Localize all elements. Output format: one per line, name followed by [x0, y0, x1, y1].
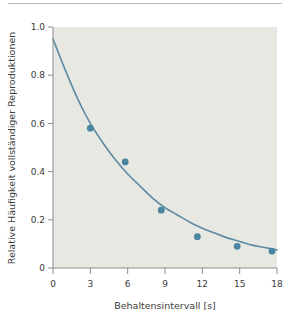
data-point [234, 243, 241, 250]
y-tick-label: 0.4 [31, 167, 46, 177]
data-point [269, 248, 276, 255]
y-axis-ticks: 00.20.40.60.81.0 [31, 22, 53, 273]
chart-canvas: 00.20.40.60.81.0 0369121518 Behaltensint… [0, 0, 290, 320]
x-tick-label: 18 [271, 279, 283, 289]
data-point [158, 207, 165, 214]
x-tick-label: 12 [197, 279, 208, 289]
y-tick-label: 1.0 [31, 22, 46, 32]
y-tick-label: 0.2 [31, 215, 45, 225]
data-point [194, 233, 201, 240]
x-tick-label: 0 [50, 279, 56, 289]
y-tick-label: 0.8 [31, 70, 46, 80]
data-point [87, 125, 94, 132]
y-axis-title: Relative Häufigkeit vollständiger Reprod… [6, 32, 17, 265]
x-axis-ticks: 0369121518 [50, 268, 283, 289]
x-tick-label: 6 [125, 279, 131, 289]
plot-background [53, 27, 277, 268]
y-tick-label: 0.6 [31, 119, 46, 129]
x-tick-label: 9 [162, 279, 168, 289]
x-axis-title: Behaltensintervall [s] [114, 300, 216, 311]
data-point [122, 159, 129, 166]
x-tick-label: 3 [87, 279, 93, 289]
chart-figure: 00.20.40.60.81.0 0369121518 Behaltensint… [0, 0, 290, 320]
x-tick-label: 15 [234, 279, 245, 289]
y-tick-label: 0 [39, 263, 45, 273]
